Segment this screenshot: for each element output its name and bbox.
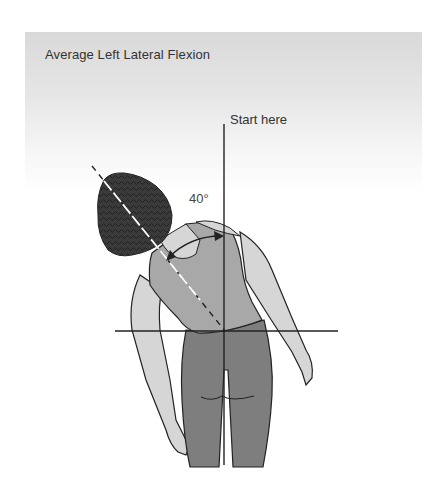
hair (98, 173, 172, 256)
lateral-flexion-illustration (0, 0, 448, 501)
pants (182, 320, 273, 467)
